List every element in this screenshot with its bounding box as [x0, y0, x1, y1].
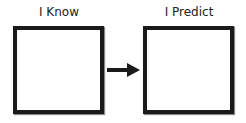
label-i-predict: I Predict: [139, 5, 239, 19]
box-i-know[interactable]: [13, 26, 104, 114]
arrow-right-icon: [107, 60, 141, 80]
label-i-know: I Know: [9, 5, 109, 19]
box-i-predict[interactable]: [143, 26, 234, 114]
